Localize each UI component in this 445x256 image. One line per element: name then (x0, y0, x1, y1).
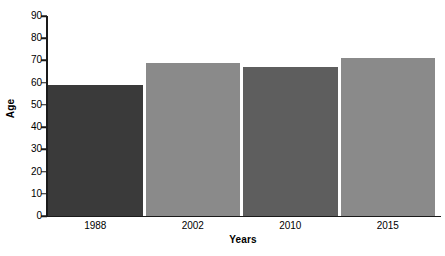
y-axis-tick-mark (41, 149, 47, 151)
y-axis-tick-mark (41, 15, 47, 17)
y-axis-tick-mark (41, 37, 47, 39)
bar (341, 58, 436, 216)
y-axis-tick-mark (41, 82, 47, 84)
x-axis-tick-label: 2015 (341, 220, 436, 232)
y-axis-tick-label: 60 (20, 78, 42, 88)
y-axis-tick-label: 30 (20, 144, 42, 154)
bar (48, 85, 143, 216)
y-axis-tick-mark (41, 60, 47, 62)
y-axis-tick-label: 40 (20, 122, 42, 132)
x-axis-tick-label: 1988 (48, 220, 143, 232)
y-axis-tick-label: 10 (20, 189, 42, 199)
bar-chart: Age 0102030405060708090 1988200220102015… (0, 0, 445, 256)
y-axis-tick-mark (41, 171, 47, 173)
y-axis-title-label: Age (6, 98, 17, 118)
x-axis-title: Years (48, 234, 438, 245)
bar (146, 63, 241, 216)
y-axis-tick-label: 70 (20, 55, 42, 65)
y-axis-tick-labels: 0102030405060708090 (20, 0, 42, 256)
y-axis-tick-label: 0 (20, 211, 42, 221)
y-axis-tick-label: 20 (20, 167, 42, 177)
plot-area (48, 16, 438, 216)
y-axis-tick-mark (41, 104, 47, 106)
y-axis-tick-mark (41, 193, 47, 195)
y-axis-tick-mark (41, 126, 47, 128)
y-axis-tick-label: 50 (20, 100, 42, 110)
y-axis-tick-label: 90 (20, 11, 42, 21)
x-axis-tick-label: 2010 (243, 220, 338, 232)
y-axis-tick-mark (41, 215, 47, 217)
bar (243, 67, 338, 216)
y-axis-tick-label: 80 (20, 33, 42, 43)
x-axis-tick-label: 2002 (146, 220, 241, 232)
y-axis-title: Age (2, 0, 20, 216)
